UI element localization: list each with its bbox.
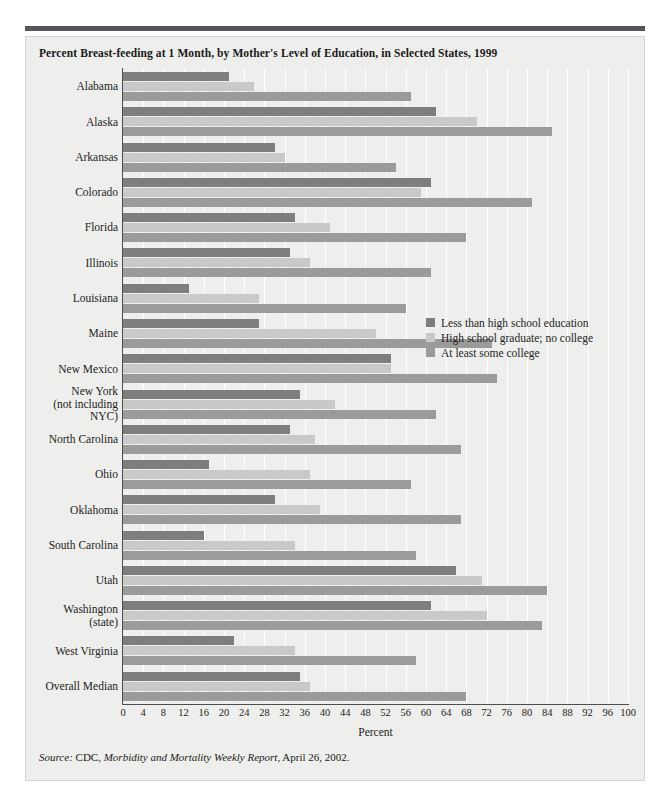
source-note: Source: CDC, Morbidity and Mortality Wee… xyxy=(39,751,350,763)
bar-group xyxy=(123,495,628,526)
bar-group xyxy=(123,178,628,209)
bar-group xyxy=(123,143,628,174)
x-axis-tick-label: 60 xyxy=(421,707,432,718)
bar-group xyxy=(123,566,628,597)
y-axis-label-line: Alabama xyxy=(32,80,118,93)
legend-swatch xyxy=(426,318,435,327)
bar xyxy=(123,656,416,665)
y-axis-label: Arkansas xyxy=(32,151,118,164)
bar xyxy=(123,435,315,444)
bar xyxy=(123,364,391,373)
bar-group xyxy=(123,460,628,491)
x-axis-tick-label: 68 xyxy=(461,707,472,718)
source-label: Source: xyxy=(39,751,73,763)
x-axis-tick-label: 0 xyxy=(120,707,125,718)
bar xyxy=(123,213,295,222)
y-axis-label: Washington(state) xyxy=(32,603,118,628)
y-axis-label-line: North Carolina xyxy=(32,433,118,446)
y-axis-label-line: (not including xyxy=(32,398,118,411)
x-axis-tick-label: 88 xyxy=(562,707,573,718)
y-axis-label: Overall Median xyxy=(32,680,118,693)
bar xyxy=(123,198,532,207)
bar xyxy=(123,223,330,232)
bar xyxy=(123,505,320,514)
bar-group xyxy=(123,636,628,667)
y-axis-label: Illinois xyxy=(32,257,118,270)
bar xyxy=(123,329,376,338)
y-axis-label-line: West Virginia xyxy=(32,645,118,658)
y-axis-labels: AlabamaAlaskaArkansasColoradoFloridaIlli… xyxy=(26,68,118,705)
x-axis-tick-label: 36 xyxy=(300,707,311,718)
x-axis-tick-label: 40 xyxy=(320,707,331,718)
x-axis-tick-label: 28 xyxy=(259,707,270,718)
chart-panel: Percent Breast-feeding at 1 Month, by Mo… xyxy=(25,36,645,781)
y-axis-label: Alaska xyxy=(32,116,118,129)
y-axis-label-line: Utah xyxy=(32,574,118,587)
x-axis-tick-label: 64 xyxy=(441,707,452,718)
bar xyxy=(123,153,285,162)
y-axis-label: Utah xyxy=(32,574,118,587)
x-axis-tick-label: 84 xyxy=(542,707,553,718)
bar xyxy=(123,400,335,409)
source-text-a: CDC, xyxy=(73,751,104,763)
x-axis-tick-label: 76 xyxy=(502,707,513,718)
bar xyxy=(123,541,295,550)
y-axis-label-line: Louisiana xyxy=(32,292,118,305)
y-axis-label: Florida xyxy=(32,221,118,234)
bar xyxy=(123,672,300,681)
bar xyxy=(123,445,461,454)
bar xyxy=(123,410,436,419)
bar xyxy=(123,188,421,197)
bar-group xyxy=(123,672,628,703)
top-rule xyxy=(25,26,645,31)
legend-item: At least some college xyxy=(426,346,593,359)
y-axis-label: New York(not includingNYC) xyxy=(32,385,118,423)
bar xyxy=(123,586,547,595)
bar xyxy=(123,294,259,303)
y-axis-label-line: New York xyxy=(32,385,118,398)
y-axis-label-line: Washington xyxy=(32,603,118,616)
y-axis-label-line: Arkansas xyxy=(32,151,118,164)
y-axis-label-line: (state) xyxy=(32,616,118,629)
bar-group xyxy=(123,213,628,244)
x-axis-tick-label: 92 xyxy=(582,707,593,718)
bar xyxy=(123,611,487,620)
y-axis-label: New Mexico xyxy=(32,363,118,376)
y-axis-label: West Virginia xyxy=(32,645,118,658)
bar-group xyxy=(123,284,628,315)
bar xyxy=(123,636,234,645)
y-axis-label-line: Oklahoma xyxy=(32,504,118,517)
x-axis-title: Percent xyxy=(122,726,629,738)
y-axis-label: Maine xyxy=(32,327,118,340)
bar xyxy=(123,646,295,655)
bar xyxy=(123,601,431,610)
bar-group xyxy=(123,601,628,632)
y-axis-label-line: Ohio xyxy=(32,468,118,481)
bar xyxy=(123,566,456,575)
bar xyxy=(123,72,229,81)
x-axis-tick-label: 4 xyxy=(141,707,146,718)
bar xyxy=(123,692,466,701)
bar-group xyxy=(123,107,628,138)
x-axis-tick-label: 100 xyxy=(620,707,636,718)
y-axis-label-line: Alaska xyxy=(32,116,118,129)
bar-group xyxy=(123,425,628,456)
bar xyxy=(123,284,189,293)
legend-item: High school graduate; no college xyxy=(426,331,593,344)
source-publication: Morbidity and Mortality Weekly Report xyxy=(104,751,278,763)
x-axis-line xyxy=(122,704,629,705)
legend-label: Less than high school education xyxy=(441,317,589,329)
x-axis-tick-label: 32 xyxy=(279,707,290,718)
bar xyxy=(123,682,310,691)
y-axis-label: Oklahoma xyxy=(32,504,118,517)
gridline xyxy=(628,68,629,703)
bar xyxy=(123,258,310,267)
legend-label: At least some college xyxy=(441,347,540,359)
bar xyxy=(123,127,552,136)
x-axis-tick-label: 96 xyxy=(603,707,614,718)
bar xyxy=(123,319,259,328)
y-axis-label-line: New Mexico xyxy=(32,363,118,376)
bar xyxy=(123,495,275,504)
legend: Less than high school educationHigh scho… xyxy=(426,316,593,361)
bar xyxy=(123,551,416,560)
